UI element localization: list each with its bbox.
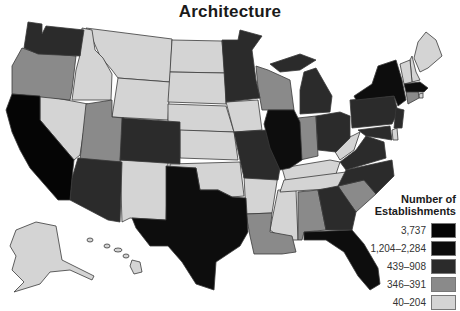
legend-swatch [431,277,456,292]
state-maryland[interactable] [358,126,392,140]
state-alaska[interactable] [10,222,94,292]
state-wisconsin[interactable] [256,66,294,110]
state-michigan-up[interactable] [270,54,316,72]
state-new-jersey[interactable] [394,108,404,128]
legend-swatch [431,259,456,274]
legend-label: 40–204 [393,297,426,308]
state-south-dakota[interactable] [168,72,226,104]
legend-title-line1: Number of [346,193,456,205]
legend-item: 1,204–2,284 [346,239,456,257]
legend-item: 346–391 [346,275,456,293]
state-oregon[interactable] [12,48,76,100]
state-michigan[interactable] [300,68,332,114]
legend-title-line2: Establishments [346,205,456,217]
state-colorado[interactable] [120,118,180,164]
state-washington[interactable] [24,22,84,56]
state-north-dakota[interactable] [170,40,225,73]
legend-label: 3,737 [401,225,426,236]
state-hawaii[interactable] [87,238,142,274]
legend-label: 346–391 [387,279,426,290]
legend-label: 439–908 [387,261,426,272]
state-pennsylvania[interactable] [350,96,398,128]
legend: Number of Establishments 3,737 1,204–2,2… [346,193,456,311]
state-massachusetts[interactable] [404,82,428,92]
legend-item: 40–204 [346,293,456,311]
legend-item: 3,737 [346,221,456,239]
state-rhode-island[interactable] [419,93,423,98]
legend-title: Number of Establishments [346,193,456,217]
legend-swatch [431,223,456,238]
legend-swatch [431,241,456,256]
legend-label: 1,204–2,284 [370,243,426,254]
state-kansas[interactable] [180,130,238,160]
state-arkansas[interactable] [244,175,278,214]
legend-item: 439–908 [346,257,456,275]
state-delaware[interactable] [392,128,398,140]
state-wyoming[interactable] [112,78,170,120]
state-arizona[interactable] [70,158,122,222]
legend-swatch [431,295,456,310]
state-maine[interactable] [414,32,442,72]
state-new-mexico[interactable] [120,160,168,222]
